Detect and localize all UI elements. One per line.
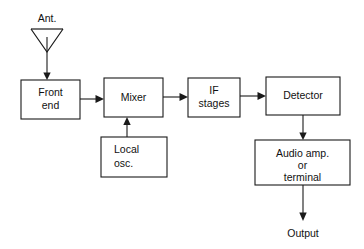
output-label: Output <box>287 227 319 239</box>
arrow-front-end-to-mixer <box>96 95 105 103</box>
if-stages-label-line2: stages <box>199 97 230 109</box>
connector-local-osc-to-mixer <box>123 117 130 137</box>
diagram-canvas: Ant. Front end Mixer IF stages <box>0 0 364 249</box>
arrow-mixer-to-if-stages <box>180 93 189 101</box>
if-stages-label-line1: IF <box>209 84 218 96</box>
front-end-label-line2: end <box>42 99 60 111</box>
connector-mixer-to-if-stages <box>163 93 188 101</box>
block-detector[interactable]: Detector <box>266 77 340 115</box>
arrow-local-osc-to-mixer <box>123 117 130 125</box>
local-osc-label-line1: Local <box>114 143 139 155</box>
connector-front-end-to-mixer <box>80 95 104 103</box>
arrow-antenna-to-front-end <box>43 73 50 81</box>
antenna-label: Ant. <box>38 12 57 24</box>
connector-detector-to-audio-amp <box>299 115 306 140</box>
block-audio-amp[interactable]: Audio amp. or terminal <box>255 140 350 185</box>
connector-audio-amp-to-output <box>299 185 306 221</box>
audio-amp-label-line2: or <box>298 159 308 171</box>
detector-label: Detector <box>283 89 323 101</box>
receiver-block-diagram: Ant. Front end Mixer IF stages <box>0 0 364 249</box>
front-end-label-line1: Front <box>38 86 63 98</box>
arrow-detector-to-audio-amp <box>299 133 306 141</box>
audio-amp-label-line1: Audio amp. <box>276 147 329 159</box>
block-if-stages[interactable]: IF stages <box>188 78 240 117</box>
antenna-group <box>31 29 63 80</box>
mixer-label: Mixer <box>121 91 147 103</box>
arrow-audio-amp-to-output <box>299 213 306 222</box>
block-mixer[interactable]: Mixer <box>104 78 163 117</box>
block-front-end[interactable]: Front end <box>21 80 80 119</box>
block-local-osc[interactable]: Local osc. <box>101 137 167 177</box>
audio-amp-label-line3: terminal <box>284 171 321 183</box>
arrow-if-stages-to-detector <box>258 92 267 100</box>
connector-if-stages-to-detector <box>240 92 266 100</box>
local-osc-label-line2: osc. <box>114 157 133 169</box>
